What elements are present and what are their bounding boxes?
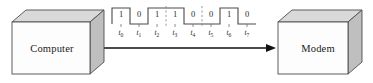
modem-box-top-face [278, 10, 362, 22]
time-label-2: t2 [148, 28, 166, 37]
bit-label-1: 0 [130, 9, 148, 19]
time-label-1: t1 [130, 28, 148, 37]
bit-label-2: 1 [148, 9, 166, 19]
modem-label: Modem [278, 43, 358, 54]
modem-box [278, 10, 362, 74]
diagram-canvas: Computer Modem 1 0 1 1 0 0 1 0 t0 t1 t2 … [0, 0, 373, 83]
bit-label-5: 0 [202, 9, 220, 19]
time-label-3: t3 [166, 28, 184, 37]
computer-box-top-face [12, 10, 104, 22]
computer-label: Computer [12, 43, 92, 54]
time-label-6: t6 [220, 28, 238, 37]
time-label-subscript: 5 [210, 32, 213, 38]
time-label-4: t4 [184, 28, 202, 37]
time-label-subscript: 7 [246, 32, 249, 38]
signal-arrow [100, 44, 276, 52]
time-label-subscript: 0 [120, 32, 123, 38]
time-label-subscript: 6 [228, 32, 231, 38]
bit-label-7: 0 [238, 9, 256, 19]
bit-label-0: 1 [112, 9, 130, 19]
bit-label-6: 1 [220, 9, 238, 19]
bit-label-4: 0 [184, 9, 202, 19]
time-label-subscript: 3 [174, 32, 177, 38]
time-label-subscript: 2 [156, 32, 159, 38]
time-label-subscript: 1 [138, 32, 141, 38]
time-label-0: t0 [112, 28, 130, 37]
signal-arrow-head [266, 44, 276, 52]
time-label-subscript: 4 [192, 32, 195, 38]
time-label-5: t5 [202, 28, 220, 37]
computer-box [12, 10, 104, 74]
time-label-7: t7 [238, 28, 256, 37]
bit-label-3: 1 [166, 9, 184, 19]
